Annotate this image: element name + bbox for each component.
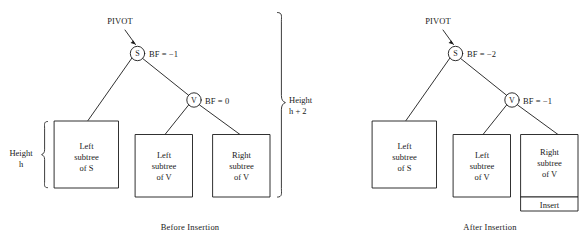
- box-line-3: of V: [213, 172, 270, 183]
- node-v-letter-after: V: [506, 96, 519, 105]
- brace-label-height-h: Height h: [2, 148, 40, 170]
- box-line-3: of V: [136, 172, 193, 183]
- box-line-2: subtree: [373, 152, 437, 163]
- brace-height-h-plus-2: [278, 13, 286, 198]
- box-line-1: Left: [373, 141, 437, 152]
- pivot-label-before: PIVOT: [96, 16, 144, 26]
- box-line-1: Right: [213, 150, 270, 161]
- box-text-right-subtree-of-v-after: Right subtree of V: [521, 147, 578, 179]
- brace-label-line-2: h + 2: [289, 106, 333, 117]
- box-line-2: subtree: [136, 161, 193, 172]
- node-s-bf-label-before: BF = −1: [149, 49, 178, 59]
- box-text-left-subtree-of-s-before: Left subtree of S: [55, 141, 119, 173]
- brace-label-line-1: Height: [289, 95, 333, 106]
- box-line-1: Left: [136, 150, 193, 161]
- box-line-2: subtree: [213, 161, 270, 172]
- box-line-1: Left: [55, 141, 119, 152]
- node-s-bf-label-after: BF = −2: [467, 49, 496, 59]
- box-line-3: of S: [55, 163, 119, 174]
- edge-s-left-before: [88, 58, 132, 120]
- box-line-1: Left: [454, 150, 511, 161]
- box-line-1: Right: [521, 147, 578, 158]
- edge-v-left-after: [483, 105, 507, 135]
- box-text-right-subtree-of-v-before: Right subtree of V: [213, 150, 270, 182]
- box-text-insert-after: Insert: [521, 200, 578, 211]
- box-line-2: subtree: [55, 152, 119, 163]
- edge-s-v-after: [461, 59, 507, 96]
- edge-s-left-after: [406, 58, 450, 120]
- diagram-vector-layer: [0, 0, 586, 238]
- box-line-2: subtree: [454, 161, 511, 172]
- brace-height-h: [42, 122, 48, 188]
- edge-v-right-after: [518, 105, 558, 135]
- edge-v-left-before: [165, 105, 189, 135]
- caption-after-insertion: After Insertion: [405, 222, 575, 232]
- box-line-3: of V: [454, 172, 511, 183]
- caption-before-insertion: Before Insertion: [105, 222, 275, 232]
- brace-label-line-2: h: [2, 159, 40, 170]
- node-v-bf-label-before: BF = 0: [205, 96, 229, 106]
- box-line-2: subtree: [521, 158, 578, 169]
- pivot-arrow-after: [443, 30, 454, 45]
- box-text-left-subtree-of-v-before: Left subtree of V: [136, 150, 193, 182]
- node-s-letter-after: S: [449, 49, 462, 58]
- node-v-bf-label-after: BF = −1: [523, 96, 552, 106]
- edge-v-right-before: [200, 105, 240, 135]
- pivot-label-after: PIVOT: [414, 16, 462, 26]
- box-line-3: of S: [373, 163, 437, 174]
- pivot-arrow-before: [125, 30, 136, 45]
- brace-label-line-1: Height: [2, 148, 40, 159]
- node-s-letter-before: S: [131, 49, 144, 58]
- edge-s-v-before: [143, 59, 189, 96]
- box-text-left-subtree-of-v-after: Left subtree of V: [454, 150, 511, 182]
- figure-canvas: PIVOT S BF = −1 V BF = 0 Left subtree of…: [0, 0, 586, 238]
- brace-label-height-h-plus-2: Height h + 2: [289, 95, 333, 117]
- box-line-3: of V: [521, 169, 578, 180]
- box-text-left-subtree-of-s-after: Left subtree of S: [373, 141, 437, 173]
- node-v-letter-before: V: [188, 96, 201, 105]
